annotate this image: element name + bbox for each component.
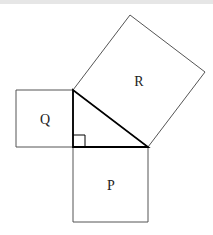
- label-r: R: [134, 74, 144, 89]
- right-angle-marker: [73, 135, 85, 147]
- label-p: P: [107, 178, 115, 193]
- pythagorean-diagram: Q P R: [0, 0, 213, 235]
- label-q: Q: [40, 112, 50, 127]
- right-triangle: [73, 90, 148, 147]
